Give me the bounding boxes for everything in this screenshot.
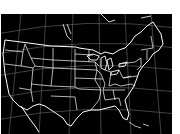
us-map [1, 14, 172, 134]
florida-keys [129, 122, 149, 128]
northern-coast [63, 14, 151, 40]
coastline [3, 22, 163, 132]
map-svg [1, 14, 172, 134]
graticule [1, 14, 172, 134]
state-boundaries [5, 36, 153, 110]
great-lakes [87, 54, 127, 75]
